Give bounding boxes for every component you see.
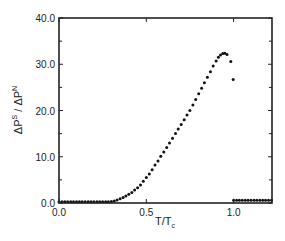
y-tick-labels: 0.010.020.030.040.0 — [36, 13, 56, 209]
data-point — [183, 118, 186, 121]
data-point — [136, 186, 139, 189]
y-tick-label: 10.0 — [36, 152, 56, 163]
data-point — [232, 78, 235, 81]
data-point — [162, 151, 165, 154]
data-point — [250, 199, 253, 202]
x-tick-label: 1.0 — [227, 207, 241, 218]
data-point — [130, 191, 133, 194]
data-point — [241, 199, 244, 202]
y-tick-label: 40.0 — [36, 13, 56, 24]
y-tick-label: 20.0 — [36, 106, 56, 117]
x-axis-label: T/Tc — [155, 215, 176, 229]
data-point — [229, 60, 232, 63]
data-point — [238, 199, 241, 202]
chart: 0.010.020.030.040.0 0.00.51.0 T/Tc ΔPS /… — [0, 0, 285, 241]
data-point — [255, 199, 258, 202]
data-point — [157, 159, 160, 162]
data-point — [119, 197, 122, 200]
data-point — [203, 81, 206, 84]
data-point — [226, 53, 229, 56]
data-point — [267, 199, 270, 202]
data-point — [261, 199, 264, 202]
data-point — [197, 92, 200, 95]
data-point — [142, 180, 145, 183]
data-point — [124, 195, 127, 198]
data-point — [122, 196, 125, 199]
x-tick-labels: 0.00.51.0 — [52, 207, 241, 218]
data-point — [253, 199, 256, 202]
data-point — [148, 172, 151, 175]
y-tick-label: 30.0 — [36, 59, 56, 70]
y-axis-label: ΔPS / ΔPN — [11, 86, 24, 134]
data-point — [113, 199, 116, 202]
data-point — [151, 168, 154, 171]
data-point — [258, 199, 261, 202]
data-point — [174, 132, 177, 135]
data-point — [188, 109, 191, 112]
data-point — [139, 184, 142, 187]
data-point — [217, 56, 220, 59]
data-point — [165, 146, 168, 149]
data-point — [264, 199, 267, 202]
x-tick-label: 0.0 — [52, 207, 66, 218]
data-point — [247, 199, 250, 202]
data-point — [116, 199, 119, 202]
data-point — [154, 164, 157, 167]
axis-ticks — [59, 18, 272, 203]
data-point — [215, 60, 218, 63]
data-point — [194, 98, 197, 101]
data-point — [180, 123, 183, 126]
data-point — [145, 176, 148, 179]
data-point — [168, 141, 171, 144]
data-point — [159, 155, 162, 158]
data-point — [127, 193, 130, 196]
data-point — [186, 114, 189, 117]
data-point — [171, 137, 174, 140]
data-point — [209, 70, 212, 73]
x-tick-label: 0.5 — [139, 207, 153, 218]
data-point — [212, 65, 215, 68]
data-point — [133, 189, 136, 192]
data-point — [244, 199, 247, 202]
data-point — [235, 199, 238, 202]
data-point — [206, 76, 209, 79]
data-point — [191, 103, 194, 106]
data-points — [58, 52, 274, 204]
data-point — [177, 128, 180, 131]
plot-frame — [59, 18, 272, 203]
data-point — [200, 87, 203, 90]
